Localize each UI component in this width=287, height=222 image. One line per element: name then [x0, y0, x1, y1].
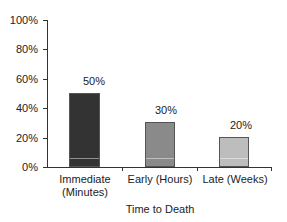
bar-highlight [70, 158, 99, 159]
bar-immediate [69, 93, 100, 167]
y-tick [43, 138, 47, 139]
x-tick [122, 167, 123, 171]
y-tick-label: 40% [2, 102, 38, 114]
y-tick-label: 60% [2, 73, 38, 85]
x-tick [271, 167, 272, 171]
chart: 100% 80% 60% 40% 20% 0% 50% 30% 20% Imme… [0, 0, 287, 222]
x-tick-label-early: Early (Hours) [122, 173, 198, 186]
bar-late [219, 137, 249, 167]
bar-highlight [220, 158, 248, 159]
bar-early [145, 122, 175, 167]
data-label: 30% [146, 104, 186, 116]
y-tick [43, 20, 47, 21]
x-axis-title: Time to Death [110, 203, 210, 215]
y-tick-label: 20% [2, 132, 38, 144]
x-tick [197, 167, 198, 171]
x-tick-label-immediate: Immediate (Minutes) [50, 173, 120, 199]
x-axis-line [43, 167, 272, 168]
y-tick-label: 80% [2, 43, 38, 55]
y-tick [43, 49, 47, 50]
y-tick [43, 79, 47, 80]
y-tick-label: 100% [2, 14, 38, 26]
data-label: 20% [221, 119, 261, 131]
y-tick [43, 108, 47, 109]
y-axis-line [47, 20, 48, 168]
data-label: 50% [74, 75, 114, 87]
bar-highlight [146, 158, 174, 159]
y-tick-label: 0% [2, 161, 38, 173]
x-tick-label-late: Late (Weeks) [197, 173, 273, 186]
